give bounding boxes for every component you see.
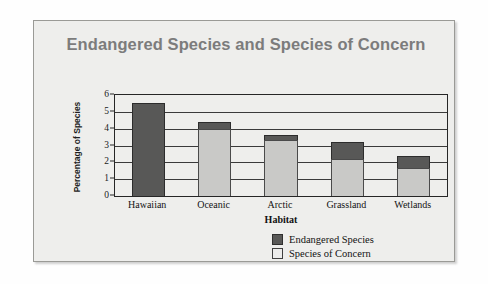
legend-label-species-of-concern: Species of Concern (289, 248, 371, 259)
y-axis-ticks: 0123456 (90, 94, 114, 197)
y-axis-title: Percentage of Species (73, 102, 83, 193)
bar-segment-species-of-concern[interactable] (198, 129, 231, 196)
y-tick-label-6: 6 (104, 89, 109, 99)
y-tick-label-3: 3 (104, 140, 109, 150)
x-axis-title: Habitat (114, 214, 448, 225)
bar-segment-species-of-concern[interactable] (264, 140, 297, 196)
chart-screenshot: Endangered Species and Species of Concer… (0, 0, 488, 284)
legend-item-species-of-concern: Species of Concern (272, 248, 452, 259)
y-tick-label-0: 0 (104, 190, 109, 200)
bar-slot (248, 95, 314, 196)
bar-oceanic[interactable] (198, 122, 231, 196)
bar-slot (115, 95, 181, 196)
bar-hawaiian[interactable] (132, 103, 165, 196)
chart-title: Endangered Species and Species of Concer… (46, 35, 446, 54)
bar-arctic[interactable] (264, 135, 297, 196)
legend-swatch-endangered-species (272, 234, 283, 245)
bar-segment-species-of-concern[interactable] (331, 159, 364, 196)
plot-area (114, 94, 448, 197)
bar-slot (381, 95, 447, 196)
x-axis-tick-labels: HawaiianOceanicArcticGrasslandWetlands (114, 199, 448, 213)
chart-legend: Endangered Species Species of Concern (272, 234, 452, 262)
y-tick-label-1: 1 (104, 173, 109, 183)
y-tick-label-4: 4 (104, 123, 109, 133)
x-tick-label-oceanic: Oceanic (180, 199, 246, 210)
bar-segment-endangered-species[interactable] (331, 142, 364, 159)
bar-slot (181, 95, 247, 196)
y-tick-label-2: 2 (104, 156, 109, 166)
bar-segment-endangered-species[interactable] (397, 156, 430, 168)
x-tick-label-grassland: Grassland (313, 199, 379, 210)
bar-slot (314, 95, 380, 196)
x-tick-label-hawaiian: Hawaiian (114, 199, 180, 210)
bar-wetlands[interactable] (397, 156, 430, 196)
bar-segment-species-of-concern[interactable] (397, 168, 430, 196)
x-tick-label-wetlands: Wetlands (380, 199, 446, 210)
bar-grassland[interactable] (331, 142, 364, 196)
legend-label-endangered-species: Endangered Species (289, 234, 374, 245)
legend-swatch-species-of-concern (272, 248, 283, 259)
chart-card: Endangered Species and Species of Concer… (33, 20, 455, 262)
legend-item-endangered-species: Endangered Species (272, 234, 452, 245)
y-tick-label-5: 5 (104, 106, 109, 116)
y-axis-title-wrapper: Percentage of Species (68, 99, 88, 195)
bar-segment-endangered-species[interactable] (198, 122, 231, 129)
x-tick-label-arctic: Arctic (247, 199, 313, 210)
bar-segment-endangered-species[interactable] (132, 103, 165, 196)
